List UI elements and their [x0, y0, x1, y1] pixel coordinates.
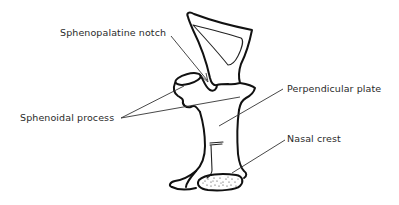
nasal-crest-section [198, 174, 242, 190]
leader-sphenoidal-process-2 [121, 97, 240, 118]
leader-nasal-crest [232, 140, 285, 173]
label-perpendicular-plate: Perpendicular plate [287, 83, 381, 95]
perpendicular-plate-upper-outline [239, 83, 255, 110]
label-sphenoidal-process: Sphenoidal process [20, 112, 114, 124]
plate-suture-line [207, 142, 223, 178]
leader-sphenoidal-process-1 [121, 86, 184, 118]
label-sphenopalatine-notch: Sphenopalatine notch [60, 27, 166, 39]
sphenoidal-process-top [174, 71, 202, 87]
label-nasal-crest: Nasal crest [287, 133, 341, 145]
